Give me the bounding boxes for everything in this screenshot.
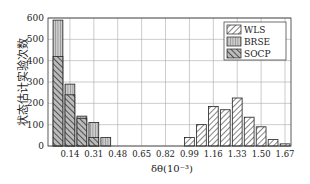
x-tick-label: 1.50: [252, 149, 271, 159]
x-tick-label: 0.48: [108, 149, 127, 159]
x-tick-label: 1.33: [228, 149, 247, 159]
bar-wls: [268, 140, 278, 146]
legend-swatch-wls: [227, 25, 241, 34]
bar-socp: [77, 118, 87, 146]
x-tick-label: 0.82: [156, 149, 175, 159]
legend-label: WLS: [244, 25, 265, 35]
bar-wls: [196, 125, 206, 146]
bar-wls: [244, 117, 254, 146]
x-tick-label: 1.67: [276, 149, 295, 159]
x-tick-label: 0.99: [180, 149, 199, 159]
bar-wls: [232, 98, 242, 146]
legend-label: BRSE: [244, 37, 270, 47]
bar-socp: [89, 137, 99, 146]
chart: 01002003004005006000.140.310.480.650.820…: [0, 0, 310, 184]
legend-swatch-brse: [227, 37, 241, 46]
x-tick-label: 0.14: [60, 149, 79, 159]
legend-label: SOCP: [244, 49, 271, 59]
bar-socp: [53, 56, 63, 146]
y-axis-label: 状态估计实验次数: [16, 38, 30, 126]
bar-wls: [208, 107, 218, 146]
y-tick-label: 600: [27, 13, 44, 23]
legend-swatch-socp: [227, 49, 241, 58]
bar-wls: [256, 127, 266, 146]
bar-brse: [101, 137, 111, 146]
x-tick-label: 1.16: [204, 149, 223, 159]
x-tick-label: 0.65: [132, 149, 151, 159]
x-tick-label: 0.31: [84, 149, 103, 159]
bar-wls: [220, 110, 230, 146]
y-tick-label: 0: [38, 141, 44, 151]
histogram-svg: 01002003004005006000.140.310.480.650.820…: [0, 0, 310, 184]
bar-socp: [65, 95, 75, 146]
bar-wls: [185, 137, 195, 146]
x-axis-label: δθ(10⁻³): [151, 163, 193, 174]
